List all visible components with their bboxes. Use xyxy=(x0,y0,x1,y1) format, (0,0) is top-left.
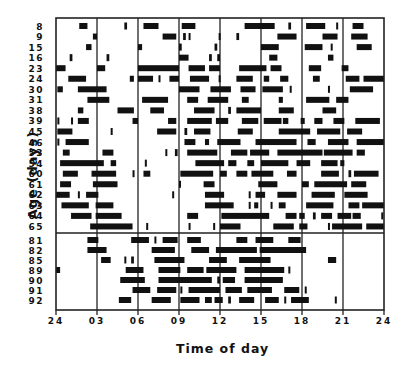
activity-bar xyxy=(71,213,92,219)
activity-bar xyxy=(57,117,59,124)
activity-bar xyxy=(180,297,199,303)
activity-bar xyxy=(150,107,164,113)
activity-bar xyxy=(355,118,380,124)
activity-bar xyxy=(353,23,364,29)
activity-bar xyxy=(347,129,362,135)
activity-bar xyxy=(93,34,97,40)
activity-bar xyxy=(250,150,269,156)
activity-bar xyxy=(172,191,174,198)
activity-bar xyxy=(133,287,151,293)
activity-bar xyxy=(357,44,372,50)
activity-bar xyxy=(78,118,89,124)
activity-bar xyxy=(239,65,266,71)
activity-bar xyxy=(332,223,362,229)
y-tick-label: 65 xyxy=(28,222,44,232)
activity-bar xyxy=(273,223,294,229)
activity-bar xyxy=(313,212,316,219)
activity-bar xyxy=(351,181,366,187)
activity-bar xyxy=(217,277,220,284)
activity-bar xyxy=(131,257,134,264)
activity-bar xyxy=(342,65,349,71)
y-tick-label: 24 xyxy=(28,74,44,84)
activity-bar xyxy=(78,191,80,198)
activity-bar xyxy=(277,150,322,156)
activity-bar xyxy=(145,160,147,167)
activity-bar xyxy=(70,54,73,61)
activity-bar xyxy=(381,212,383,219)
activity-bar xyxy=(208,97,229,103)
activity-bar xyxy=(216,118,228,124)
activity-bar xyxy=(90,223,132,229)
activity-bar xyxy=(357,150,365,156)
activity-bar xyxy=(209,54,212,61)
activity-bar xyxy=(159,75,161,82)
activity-bar xyxy=(216,247,257,253)
x-tick-label: 09 xyxy=(171,316,188,326)
activity-bar xyxy=(205,192,224,198)
x-tick-label: 24 xyxy=(48,316,65,326)
activity-bar xyxy=(120,277,145,283)
activity-bar xyxy=(57,86,62,92)
activity-bar xyxy=(236,171,247,177)
x-tick-label: 15 xyxy=(253,316,270,326)
activity-bar xyxy=(187,237,201,243)
activity-bar xyxy=(251,171,273,177)
activity-bar xyxy=(215,44,218,51)
activity-bar xyxy=(187,213,198,219)
activity-bar xyxy=(194,107,215,113)
activity-bar xyxy=(245,277,283,283)
activity-bar xyxy=(66,139,89,145)
activity-bar xyxy=(157,129,176,135)
activity-bar xyxy=(107,54,110,61)
activity-bar xyxy=(157,287,176,293)
activity-bar xyxy=(264,76,269,82)
activity-bar xyxy=(210,86,231,92)
activity-bar xyxy=(87,237,98,243)
activity-bar xyxy=(328,86,330,93)
activity-bar xyxy=(331,44,333,51)
activity-bar xyxy=(124,257,126,264)
activity-bar xyxy=(187,97,198,103)
activity-bar xyxy=(217,139,240,145)
activity-bar xyxy=(269,55,277,61)
activity-bar xyxy=(189,287,220,293)
y-axis-label: Age (days) xyxy=(25,131,40,219)
activity-bar xyxy=(279,129,310,135)
y-tick-label: 9 xyxy=(36,32,44,42)
activity-bar xyxy=(138,65,179,71)
y-tick-label: 82 xyxy=(28,246,44,256)
x-tick-label: 03 xyxy=(89,316,106,326)
activity-bar xyxy=(152,297,171,303)
activity-bar xyxy=(305,287,307,294)
activity-bar xyxy=(97,65,105,71)
activity-bar xyxy=(183,33,186,40)
activity-bar xyxy=(189,65,205,71)
activity-bar xyxy=(328,257,336,263)
y-tick-label: 85 xyxy=(28,256,44,266)
activity-bar xyxy=(228,160,236,166)
activity-bar xyxy=(245,23,275,29)
activity-bar xyxy=(63,171,78,177)
activity-bar xyxy=(254,202,258,208)
activity-bar xyxy=(219,33,221,40)
activity-bar xyxy=(118,107,134,113)
activity-bar xyxy=(286,213,297,219)
activity-bar xyxy=(277,34,296,40)
activity-bar xyxy=(324,150,353,156)
activity-bar xyxy=(288,267,290,274)
activity-bar xyxy=(87,247,106,253)
activity-bar xyxy=(220,223,241,229)
activity-bar xyxy=(180,287,182,294)
activity-bar xyxy=(256,139,297,145)
activity-bar xyxy=(159,277,212,283)
activity-bar xyxy=(56,192,70,198)
activity-bar xyxy=(187,150,217,156)
activity-bar xyxy=(168,118,176,124)
y-tick-label: 39 xyxy=(28,116,44,126)
actogram-chart: 8915162324303138394546535460616263646581… xyxy=(0,0,409,370)
activity-bar xyxy=(344,192,367,198)
activity-bar xyxy=(284,287,299,293)
activity-bar xyxy=(60,181,71,187)
activity-bar xyxy=(71,117,73,124)
activity-bar xyxy=(92,171,117,177)
